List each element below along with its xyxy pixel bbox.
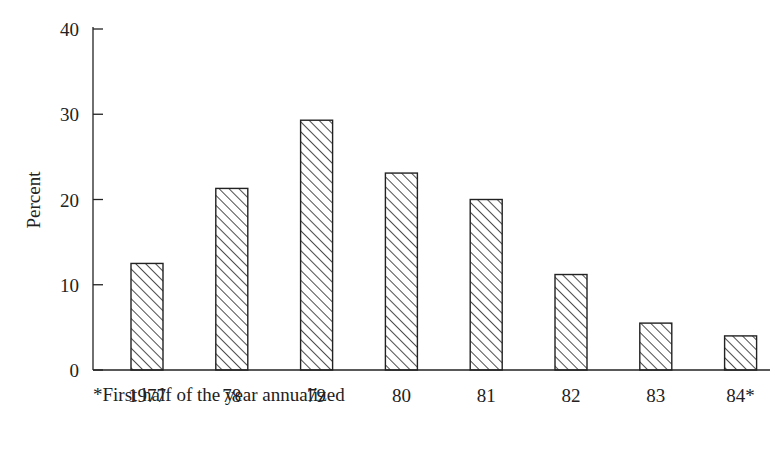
x-tick-label: 84*: [726, 385, 755, 406]
bar-79: [301, 120, 333, 370]
bars: [131, 120, 757, 370]
x-tick-label: 82: [562, 385, 581, 406]
y-tick-label: 40: [60, 19, 79, 40]
bar-84: [725, 336, 757, 370]
x-tick-label: 80: [392, 385, 411, 406]
x-tick-label: 81: [477, 385, 496, 406]
y-tick-label: 20: [60, 190, 79, 211]
bar-1977: [131, 263, 163, 370]
bar-78: [216, 188, 248, 370]
y-tick-label: 0: [70, 360, 80, 381]
bar-83: [640, 323, 672, 370]
x-tick-label: 83: [646, 385, 665, 406]
y-axis-title: Percent: [23, 171, 44, 229]
bar-82: [555, 275, 587, 370]
bar-81: [470, 200, 502, 371]
footnote: *First half of the year annualized: [93, 384, 345, 406]
bar-80: [385, 173, 417, 370]
y-tick-label: 30: [60, 104, 79, 125]
y-axis: 010203040: [60, 19, 103, 381]
y-tick-label: 10: [60, 275, 79, 296]
